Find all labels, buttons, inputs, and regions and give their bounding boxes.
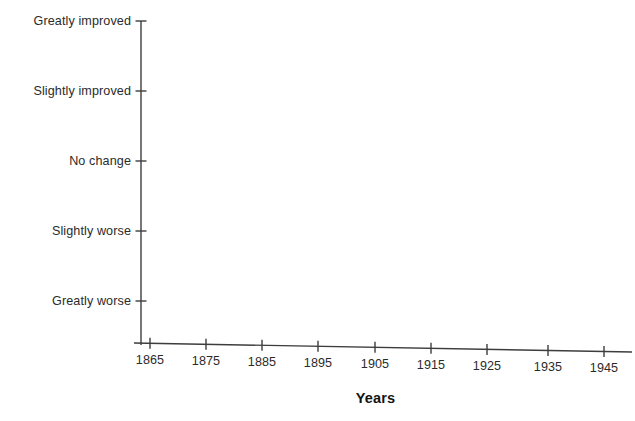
chart-figure: Greatly improvedSlightly improvedNo chan… xyxy=(0,0,635,421)
x-axis-tick-labels: 186518751885189519051915192519351945 xyxy=(0,0,635,421)
x-axis-tick-label: 1895 xyxy=(304,357,332,370)
x-axis-tick-label: 1925 xyxy=(473,360,501,373)
x-axis-tick-label: 1945 xyxy=(590,362,618,375)
x-axis-title-text: Years xyxy=(356,390,396,406)
x-axis-tick-label: 1915 xyxy=(417,359,445,372)
x-axis-tick-label: 1885 xyxy=(248,356,276,369)
x-axis-tick-label: 1935 xyxy=(534,361,562,374)
x-axis-tick-label: 1865 xyxy=(136,354,164,367)
x-axis-tick-label: 1875 xyxy=(192,355,220,368)
x-axis-title: Years xyxy=(0,390,635,406)
x-axis-tick-label: 1905 xyxy=(361,358,389,371)
